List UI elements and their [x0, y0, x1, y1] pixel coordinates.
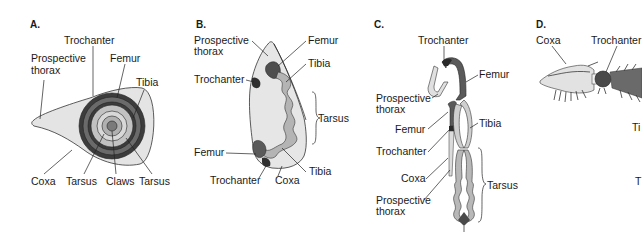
label-c-trochanter-left: Trochanter: [376, 145, 427, 157]
label-prospective-thorax-2: thorax: [31, 64, 61, 76]
label-tarsus-outer: Tarsus: [139, 175, 170, 187]
d-femur-shape: [610, 68, 642, 98]
c-tarsus-right: [464, 150, 474, 222]
label-c-prospective-thorax-bottom-2: thorax: [376, 205, 406, 217]
c-tarsus-left: [454, 150, 464, 222]
label-tibia: Tibia: [136, 76, 159, 88]
panel-c: C. Trochanter Femur Prospe: [374, 19, 518, 232]
label-coxa: Coxa: [31, 175, 56, 187]
label-b-femur-bottom: Femur: [194, 146, 225, 158]
label-c-tibia: Tibia: [479, 117, 502, 129]
label-b-tibia-top: Tibia: [308, 57, 331, 69]
panel-b: B. Prospective thorax Femur Tibia Trocha…: [194, 19, 349, 186]
c-upper-thorax-shape: [428, 66, 448, 97]
c-coxa-strip: [449, 131, 454, 176]
label-femur: Femur: [110, 52, 141, 64]
c-tibia-right: [460, 100, 472, 148]
label-tarsus-inner: Tarsus: [66, 175, 97, 187]
c-tibia-left: [453, 104, 464, 148]
label-c-tarsus: Tarsus: [487, 179, 518, 191]
label-d-coxa: Coxa: [536, 34, 561, 46]
label-b-trochanter-bottom: Trochanter: [210, 174, 261, 186]
ring-claws: [107, 121, 117, 131]
panel-d-label: D.: [536, 19, 546, 30]
panel-c-label: C.: [374, 19, 384, 30]
c-trochanter-left: [449, 126, 454, 131]
label-c-trochanter-top: Trochanter: [418, 34, 469, 46]
label-c-prospective-thorax-top-2: thorax: [376, 103, 406, 115]
label-d-tibia-partial: Ti: [632, 121, 640, 133]
label-c-femur-top: Femur: [479, 68, 510, 80]
label-prospective-thorax-1: Prospective: [31, 52, 86, 64]
label-b-tarsus: Tarsus: [318, 112, 349, 124]
panel-b-label: B.: [196, 19, 206, 30]
label-b-prospective-thorax-2: thorax: [194, 45, 224, 57]
panel-a: A. Trochanter Prospective thorax Femur T…: [30, 19, 170, 187]
label-c-coxa: Coxa: [401, 172, 426, 184]
label-trochanter: Trochanter: [64, 34, 115, 46]
leg-disc-diagram: A. Trochanter Prospective thorax Femur T…: [0, 0, 642, 232]
label-b-coxa: Coxa: [275, 174, 300, 186]
label-d-tarsus-partial: T: [635, 175, 642, 187]
label-b-tibia-bottom: Tibia: [309, 165, 332, 177]
d-trochanter-shape: [595, 71, 611, 87]
label-d-trochanter: Trochanter: [591, 34, 642, 46]
label-claws: Claws: [106, 175, 135, 187]
c-claws: [458, 212, 470, 226]
label-b-femur-top: Femur: [308, 34, 339, 46]
d-coxa-shape: [540, 65, 594, 93]
panel-a-label: A.: [30, 19, 40, 30]
panel-d: D.: [536, 19, 642, 187]
label-b-trochanter-top: Trochanter: [194, 73, 245, 85]
label-c-femur-left: Femur: [395, 123, 426, 135]
